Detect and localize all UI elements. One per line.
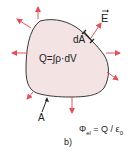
arrow-e-field-icon bbox=[91, 23, 101, 38]
panel-label: b) bbox=[64, 138, 72, 147]
arrow-lower-left-icon bbox=[27, 92, 33, 99]
epsilon-subscript: 0 bbox=[120, 130, 123, 136]
surface-pointer bbox=[42, 97, 49, 112]
flux-equation: Φel = Q / ε0 bbox=[79, 125, 123, 136]
area-element-label: dA bbox=[73, 35, 85, 45]
charge-equation: Q=∫ρ·dV bbox=[39, 54, 77, 64]
field-label: E bbox=[101, 13, 108, 24]
flux-rhs: = Q / ε bbox=[91, 124, 120, 134]
surface-label: A bbox=[38, 113, 45, 123]
arrow-upper-left-icon bbox=[17, 19, 31, 28]
